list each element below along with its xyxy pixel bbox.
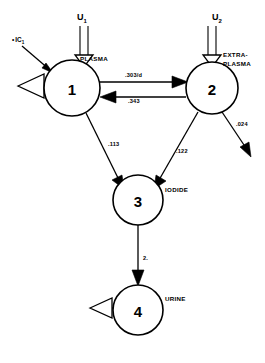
input-arrow-u2 [203, 26, 221, 67]
rate-label-plasma-to-extraplasma: .303/d [125, 72, 142, 78]
node-label-extraplasma-2: PLASMA [223, 60, 251, 67]
svg-text:U1: U1 [77, 12, 88, 24]
svg-text:•IC1: •IC1 [12, 36, 25, 45]
node-label-plasma: PLASMA [80, 55, 108, 62]
rate-label-extraplasma-to-plasma: .343 [128, 98, 140, 104]
node-label-extraplasma: EXTRA- [223, 51, 248, 58]
svg-text:U2: U2 [212, 12, 223, 24]
initial-condition-label: •IC1 [12, 36, 25, 45]
node-number-4: 4 [134, 303, 143, 320]
edge-extraplasma-to-plasma [100, 91, 186, 103]
input-subscript-u1: 1 [84, 18, 88, 24]
compartmental-model-diagram: 1 2 3 4 PLASMA EXTRA- PLASMA IODIDE URIN… [0, 0, 265, 363]
node-label-iodide: IODIDE [165, 186, 188, 193]
edge-extraplasma-to-external [222, 112, 251, 157]
sampler-urine-icon [90, 298, 116, 318]
ic-subscript: 1 [22, 40, 25, 45]
input-label-u1: U1 [77, 12, 88, 24]
node-number-3: 3 [134, 193, 142, 210]
input-subscript-u2: 2 [219, 18, 223, 24]
input-label-u2: U2 [212, 12, 223, 24]
rate-label-plasma-to-iodide: .113 [108, 141, 119, 147]
initial-condition-arrow [22, 46, 53, 73]
rate-label-iodide-to-urine: 2. [143, 255, 148, 261]
node-number-2: 2 [208, 81, 216, 98]
edge-plasma-to-iodide [86, 113, 124, 189]
edge-plasma-to-extraplasma [100, 76, 188, 88]
rate-label-extraplasma-to-iodide: .122 [176, 148, 188, 154]
node-label-urine: URINE [165, 295, 186, 302]
rate-label-extraplasma-external: .024 [236, 121, 248, 127]
node-number-1: 1 [68, 81, 76, 98]
diagram-canvas: 1 2 3 4 PLASMA EXTRA- PLASMA IODIDE URIN… [0, 0, 265, 363]
